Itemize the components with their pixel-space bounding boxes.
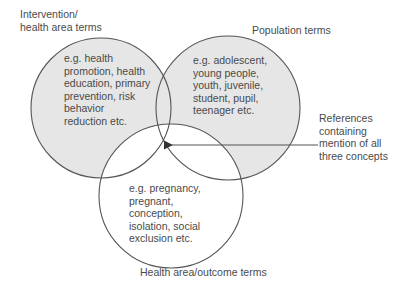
outcome-label: Health area/outcome terms [140, 266, 267, 279]
population-label: Population terms [252, 24, 331, 37]
intervention-label: Intervention/ health area terms [20, 8, 102, 34]
callout-label: References containing mention of all thr… [319, 112, 388, 162]
population-examples: e.g. adolescent, young people, youth, ju… [193, 54, 267, 117]
outcome-examples: e.g. pregnancy, pregnant, conception, is… [129, 182, 201, 245]
intervention-examples: e.g. health promotion, health education,… [64, 52, 150, 127]
